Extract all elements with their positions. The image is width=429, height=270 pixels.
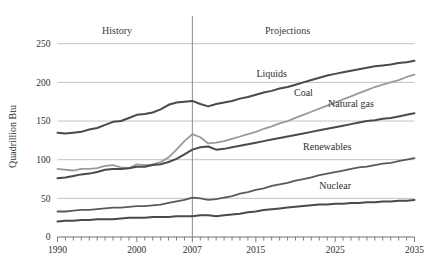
period-label-history: History <box>102 25 132 36</box>
series-label-renewables: Renewables <box>303 141 351 152</box>
y-tick-label-250: 250 <box>36 39 51 49</box>
y-axis-title: Quadrillion Btu <box>7 105 18 168</box>
series-line-nuclear <box>58 200 415 222</box>
y-tick-label-150: 150 <box>36 116 51 126</box>
x-tick-label-2035: 2035 <box>405 245 424 255</box>
period-label-projections: Projections <box>265 25 310 36</box>
data-series <box>58 61 415 222</box>
y-tick-label-0: 0 <box>46 232 51 242</box>
series-label-nuclear: Nuclear <box>319 180 351 191</box>
y-tick-label-50: 50 <box>41 194 51 204</box>
y-axis-ticks: 050100150200250 <box>36 39 51 242</box>
energy-consumption-chart: 050100150200250 199020002007201520252035… <box>0 0 429 270</box>
period-labels: HistoryProjections <box>102 25 310 36</box>
y-tick-label-200: 200 <box>36 78 51 88</box>
series-label-coal: Coal <box>294 87 313 98</box>
x-tick-label-2025: 2025 <box>326 245 345 255</box>
y-tick-label-100: 100 <box>36 155 51 165</box>
x-tick-label-2007: 2007 <box>183 245 202 255</box>
series-label-liquids: Liquids <box>256 68 287 79</box>
y-axis-title-text: Quadrillion Btu <box>7 105 18 168</box>
x-tick-label-2015: 2015 <box>246 245 265 255</box>
x-tick-label-2000: 2000 <box>127 245 146 255</box>
x-axis: 199020002007201520252035 <box>48 237 424 255</box>
chart-svg: 050100150200250 199020002007201520252035… <box>0 0 429 270</box>
series-labels: LiquidsCoalNatural gasRenewablesNuclear <box>256 68 374 191</box>
x-tick-label-1990: 1990 <box>48 245 67 255</box>
series-label-natural-gas: Natural gas <box>328 98 374 109</box>
